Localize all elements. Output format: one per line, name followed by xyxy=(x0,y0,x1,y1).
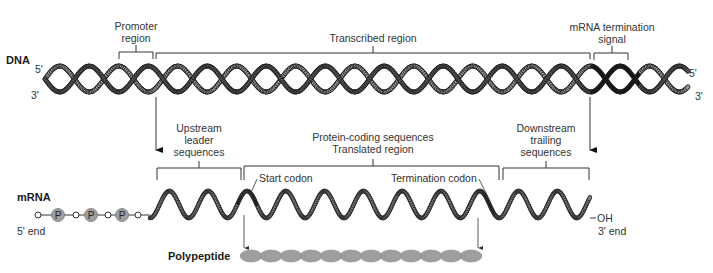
five-prime-end-label: 5' end xyxy=(17,225,45,237)
downstream-line-1: Downstream xyxy=(511,122,581,134)
svg-text:P: P xyxy=(119,210,126,221)
termination-signal-line-2: signal xyxy=(562,33,662,45)
promoter-line-2: region xyxy=(106,32,166,44)
svg-text:P: P xyxy=(55,210,62,221)
three-prime-end-label: 3' end xyxy=(598,225,626,237)
termination-codon-label: Termination codon xyxy=(391,172,477,184)
mrna-label: mRNA xyxy=(17,191,51,203)
downstream-line-3: sequences xyxy=(511,146,581,158)
start-codon-pointer xyxy=(250,179,257,195)
downstream-line-2: trailing xyxy=(511,134,581,146)
svg-text:P: P xyxy=(88,210,95,221)
transcribed-region-label: Transcribed region xyxy=(313,32,433,44)
polypeptide-chain xyxy=(240,250,482,262)
upstream-bracket xyxy=(157,161,241,180)
dna-5prime-left: 5' xyxy=(35,63,43,75)
polypeptide-label: Polypeptide xyxy=(168,250,230,262)
upstream-line-1: Upstream xyxy=(169,122,229,134)
dna-3prime-left: 3' xyxy=(31,89,39,101)
promoter-region-label: Promoter region xyxy=(106,20,166,44)
start-codon-label: Start codon xyxy=(259,172,313,184)
termination-signal-label: mRNA termination signal xyxy=(562,21,662,45)
dna-3prime-right: 3' xyxy=(695,90,703,102)
dna-label: DNA xyxy=(6,54,30,66)
termination-signal-bracket xyxy=(594,46,628,60)
coding-line-2: Translated region xyxy=(303,143,443,155)
upstream-line-3: sequences xyxy=(169,146,229,158)
phosphate-chain: PPP xyxy=(35,209,150,222)
promoter-line-1: Promoter xyxy=(106,20,166,32)
downstream-bracket xyxy=(503,161,589,180)
mrna-strand xyxy=(150,191,590,218)
promoter-bracket xyxy=(119,45,153,59)
transcribed-bracket xyxy=(156,46,590,59)
upstream-line-2: leader xyxy=(169,134,229,146)
coding-line-1: Protein-coding sequences xyxy=(303,131,443,143)
downstream-label: Downstream trailing sequences xyxy=(511,122,581,158)
dna-helix xyxy=(45,66,688,92)
dna-5prime-right: 5' xyxy=(689,67,697,79)
termination-signal-line-1: mRNA termination xyxy=(562,21,662,33)
oh-label: OH xyxy=(597,212,613,224)
coding-label: Protein-coding sequences Translated regi… xyxy=(303,131,443,155)
upstream-label: Upstream leader sequences xyxy=(169,122,229,158)
